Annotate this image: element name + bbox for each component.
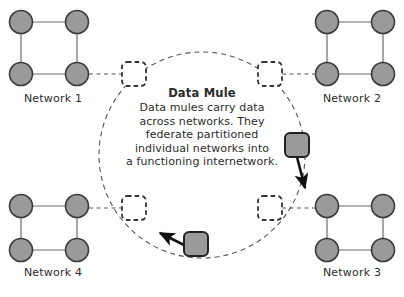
network-label-net2: Network 2 (304, 92, 400, 105)
network-node (10, 63, 33, 86)
data-mule-description: Data mules carry data across networks. T… (106, 101, 298, 169)
network-net4 (10, 195, 89, 262)
gateway-bottom-left-icon (122, 196, 146, 220)
network-net3 (316, 195, 395, 262)
mule-bottom-motion-arrow (160, 233, 184, 245)
network-node (66, 239, 89, 262)
network-net1 (10, 11, 89, 86)
network-node (316, 11, 339, 34)
diagram-canvas: Network 1 Network 2 Network 4 Network 3 … (0, 0, 404, 297)
network-node (66, 63, 89, 86)
network-node (372, 239, 395, 262)
network-node (316, 63, 339, 86)
data-mule-caption: Data Mule Data mules carry data across n… (106, 86, 298, 169)
network-node (316, 195, 339, 218)
caption-line: federate partitioned (106, 128, 298, 142)
caption-line: individual networks into (106, 142, 298, 156)
network-label-net3: Network 3 (304, 266, 400, 279)
network-node (66, 11, 89, 34)
caption-line: across networks. They (106, 115, 298, 129)
gateway-top-right-icon (258, 62, 282, 86)
caption-line: Data mules carry data (106, 101, 298, 115)
mule-bottom-icon (184, 232, 208, 256)
network-node (10, 195, 33, 218)
network-node (66, 195, 89, 218)
network-node (316, 239, 339, 262)
caption-line: a functioning internetwork. (106, 155, 298, 169)
gateway-top-left-icon (122, 62, 146, 86)
network-node (10, 239, 33, 262)
data-mule-title: Data Mule (106, 86, 298, 100)
network-node (10, 11, 33, 34)
network-node (372, 195, 395, 218)
network-label-net4: Network 4 (5, 266, 101, 279)
network-node (372, 63, 395, 86)
gateway-bottom-right-icon (258, 196, 282, 220)
network-node (372, 11, 395, 34)
network-net2 (316, 11, 395, 86)
network-label-net1: Network 1 (5, 92, 101, 105)
